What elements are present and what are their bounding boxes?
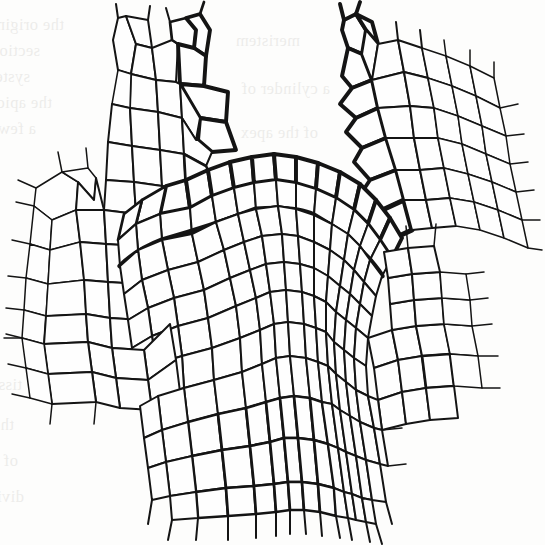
meristem-drawing-svg bbox=[0, 0, 545, 545]
line-drawing-canvas bbox=[0, 0, 545, 545]
right-flank-files bbox=[368, 224, 500, 430]
figure-shoot-apical-meristem: the original length of the cellsections … bbox=[0, 0, 545, 545]
